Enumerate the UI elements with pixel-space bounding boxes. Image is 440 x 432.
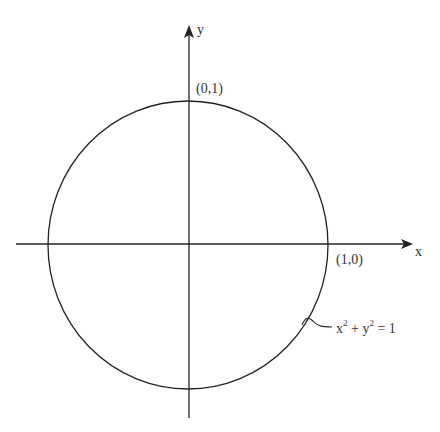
point-label-1-0: (1,0): [336, 252, 363, 268]
eq-x: x: [336, 321, 343, 336]
eq-rhs: = 1: [374, 321, 396, 336]
unit-circle-diagram: [0, 0, 440, 432]
circle-equation: x2 + y2 = 1: [336, 318, 396, 337]
y-axis-label: y: [197, 22, 204, 38]
unit-circle: [48, 101, 328, 389]
eq-plus: +: [348, 321, 363, 336]
x-axis-label: x: [415, 244, 422, 260]
point-label-0-1: (0,1): [196, 81, 223, 97]
